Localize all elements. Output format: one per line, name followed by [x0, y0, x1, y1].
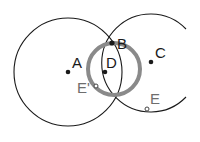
geometry-diagram: A B C D E' E — [0, 0, 200, 142]
label-c: C — [155, 44, 166, 61]
label-b: B — [117, 35, 127, 52]
point-a — [66, 70, 71, 75]
point-c — [149, 60, 154, 65]
label-e: E — [150, 90, 160, 107]
point-e-prime — [94, 84, 98, 88]
point-b — [109, 40, 114, 45]
label-a: A — [72, 54, 82, 71]
label-e-prime: E' — [77, 79, 90, 96]
point-e — [145, 107, 149, 111]
label-d: D — [106, 54, 117, 71]
